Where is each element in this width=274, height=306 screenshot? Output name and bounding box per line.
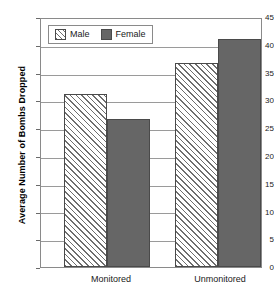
bar-monitored-female [107,119,150,267]
legend-hatched-swatch-icon [55,29,66,40]
bar-monitored-male [64,94,107,267]
bar-unmonitored-male [175,63,218,267]
bar-unmonitored-female [218,39,261,267]
legend-label-male: Male [70,30,90,39]
legend-item-male: Male [55,29,90,40]
chart-legend: Male Female [48,25,153,44]
x-tick-label-unmonitored: Unmonitored [172,274,268,284]
y-tick-mark-0 [36,268,40,269]
legend-solid-swatch-icon [101,29,112,40]
bar-chart: Average Number of Bombs Dropped 45 40 35… [0,0,274,306]
legend-item-female: Female [101,29,146,40]
x-tick-label-monitored: Monitored [66,274,156,284]
plot-area [40,18,262,268]
y-axis-title: Average Number of Bombs Dropped [17,30,27,260]
legend-label-female: Female [116,30,146,39]
